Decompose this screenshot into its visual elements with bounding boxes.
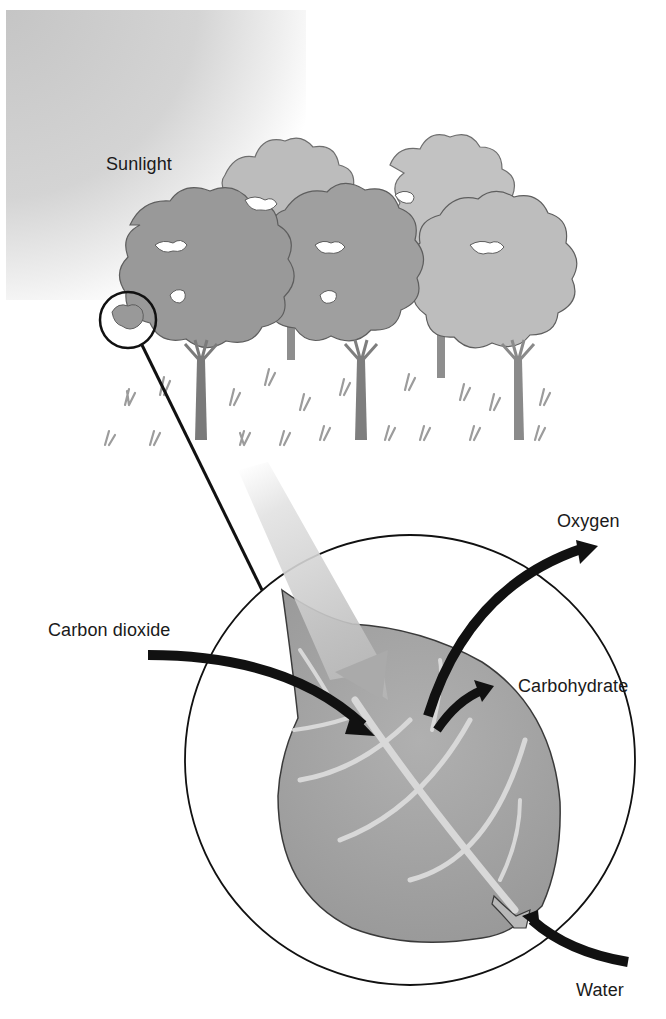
label-carbon-dioxide: Carbon dioxide	[48, 620, 170, 641]
water-arrow	[522, 910, 628, 962]
trees-front	[119, 183, 576, 440]
label-oxygen: Oxygen	[557, 511, 620, 532]
tree-front-right	[410, 191, 577, 440]
label-carbohydrate: Carbohydrate	[518, 676, 628, 697]
photosynthesis-diagram	[0, 0, 666, 1019]
label-water: Water	[576, 980, 624, 1001]
label-sunlight: Sunlight	[106, 154, 172, 175]
tree-front-left	[119, 188, 294, 440]
